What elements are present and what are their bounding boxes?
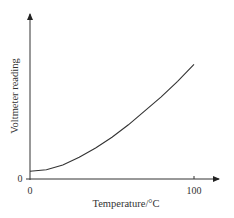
voltmeter-temperature-chart: 0 0 100 Temperature/°C Voltmeter reading	[0, 0, 234, 218]
y-tick-label-0: 0	[18, 173, 23, 184]
x-tick-label-100: 100	[187, 185, 202, 196]
x-tick-label-0: 0	[28, 185, 33, 196]
x-axis-label: Temperature/°C	[92, 198, 159, 209]
data-curve	[30, 64, 194, 171]
y-axis-label: Voltmeter reading	[9, 58, 20, 134]
